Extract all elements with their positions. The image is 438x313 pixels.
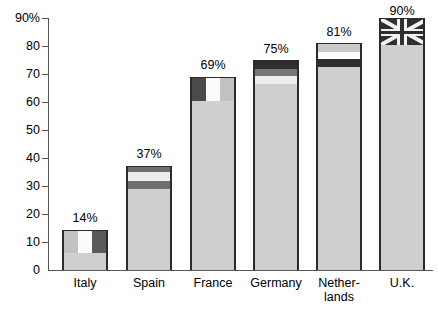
bar-body [381, 44, 423, 270]
flag-union-jack-icon [381, 19, 423, 45]
plot-area: 14% 37% 69% [0, 0, 438, 313]
x-axis-label-netherlands: Nether- lands [304, 277, 374, 304]
flag-spain-icon [128, 167, 170, 189]
flag-france-icon [192, 78, 234, 101]
bar-netherlands[interactable] [316, 43, 362, 270]
bar-value-italy: 14% [50, 212, 120, 225]
bar-value-spain: 37% [114, 148, 184, 161]
bar-france[interactable] [190, 77, 236, 270]
x-axis-label-line1: Germany [241, 277, 311, 291]
bar-body [128, 188, 170, 270]
bar-value-germany: 75% [241, 43, 311, 56]
x-axis-label-line1: France [178, 277, 248, 291]
bar-body [192, 100, 234, 270]
x-axis-label-uk: U.K. [367, 277, 437, 291]
bar-uk[interactable] [379, 18, 425, 270]
bar-body [255, 83, 297, 270]
bar-body [318, 66, 360, 270]
flag-germany-icon [255, 61, 297, 84]
bar-italy[interactable] [62, 230, 108, 270]
x-axis-label-germany: Germany [241, 277, 311, 291]
x-axis-label-line1: Spain [114, 277, 184, 291]
bar-body [64, 252, 106, 270]
x-axis-label-line1: Nether- [304, 277, 374, 291]
x-axis-label-line2: lands [304, 291, 374, 305]
x-axis-label-line1: Italy [50, 277, 120, 291]
flag-netherlands-icon [318, 44, 360, 67]
bar-germany[interactable] [253, 60, 299, 270]
bar-chart: 90% 80 70 60 50 40 30 20 10 0 [0, 0, 438, 313]
x-axis-label-italy: Italy [50, 277, 120, 291]
bar-spain[interactable] [126, 166, 172, 270]
flag-italy-icon [64, 231, 106, 253]
x-axis-label-spain: Spain [114, 277, 184, 291]
x-axis-label-france: France [178, 277, 248, 291]
bar-value-uk: 90% [367, 5, 437, 18]
bar-value-france: 69% [178, 59, 248, 72]
bar-value-netherlands: 81% [304, 26, 374, 39]
x-axis-label-line1: U.K. [367, 277, 437, 291]
